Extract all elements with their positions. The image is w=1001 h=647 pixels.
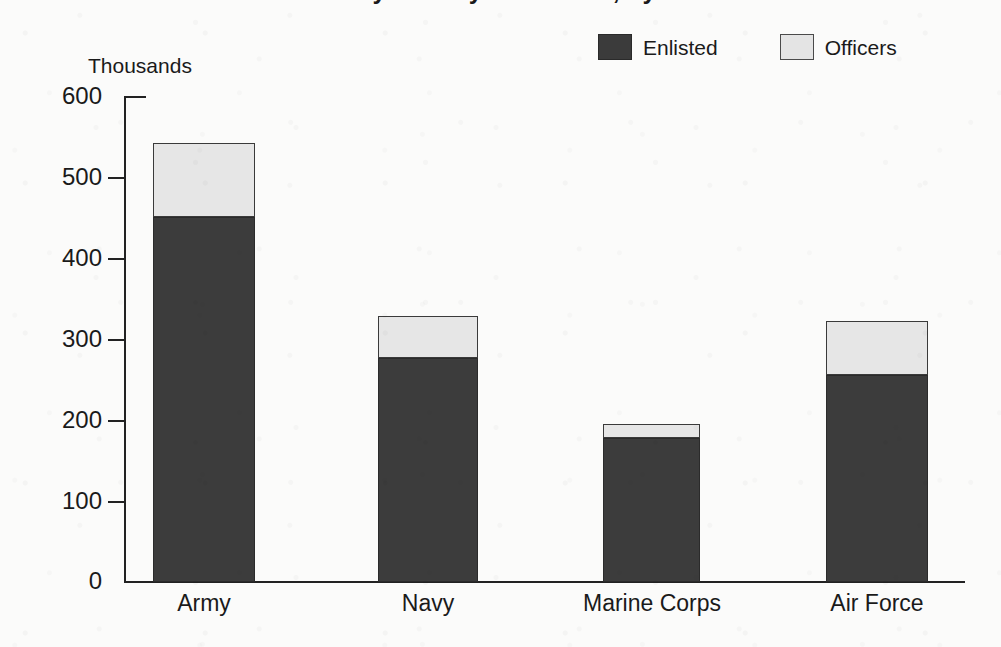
y-tick-100 [108,501,126,503]
y-axis-label-400: 400 [36,246,102,270]
bar-navy[interactable] [378,316,478,582]
legend-swatch-officers-icon [780,34,814,60]
legend-label-enlisted: Enlisted [643,37,718,58]
bar-segment-army-officers[interactable] [153,143,255,217]
bar-segment-army-enlisted[interactable] [153,217,255,582]
y-tick-200 [108,420,126,422]
x-axis-label-army: Army [124,592,284,615]
y-axis-units-label: Thousands [88,54,192,78]
y-tick-500 [108,177,126,179]
legend-entry-enlisted: Enlisted [598,34,718,60]
bar-marine-corps[interactable] [603,424,700,582]
bar-segment-navy-officers[interactable] [378,316,478,358]
y-tick-600 [124,96,146,98]
bar-segment-navy-enlisted[interactable] [378,358,478,582]
y-axis-label-200: 200 [36,408,102,432]
bar-air-force[interactable] [826,321,928,582]
chart-plot-area: 600 500 400 300 200 100 0 Army Navy Mari… [0,0,1001,647]
y-tick-300 [108,339,126,341]
bar-segment-air-force-officers[interactable] [826,321,928,375]
legend-swatch-enlisted-icon [598,34,632,60]
bar-segment-air-force-enlisted[interactable] [826,375,928,582]
legend-label-officers: Officers [825,37,897,58]
legend-entry-officers: Officers [780,34,897,60]
y-tick-400 [108,258,126,260]
x-axis-label-navy: Navy [348,592,508,615]
x-axis-label-air-force: Air Force [797,592,957,615]
bar-army[interactable] [153,143,255,582]
y-axis-label-0: 0 [36,569,102,593]
bar-segment-marine-corps-officers[interactable] [603,424,700,438]
y-axis-label-300: 300 [36,327,102,351]
y-axis-label-600: 600 [36,84,102,108]
x-axis-label-marine-corps: Marine Corps [572,592,732,615]
chart-legend: Enlisted Officers [598,34,897,60]
bar-segment-marine-corps-enlisted[interactable] [603,438,700,582]
y-axis-label-100: 100 [36,489,102,513]
y-axis-label-500: 500 [36,165,102,189]
